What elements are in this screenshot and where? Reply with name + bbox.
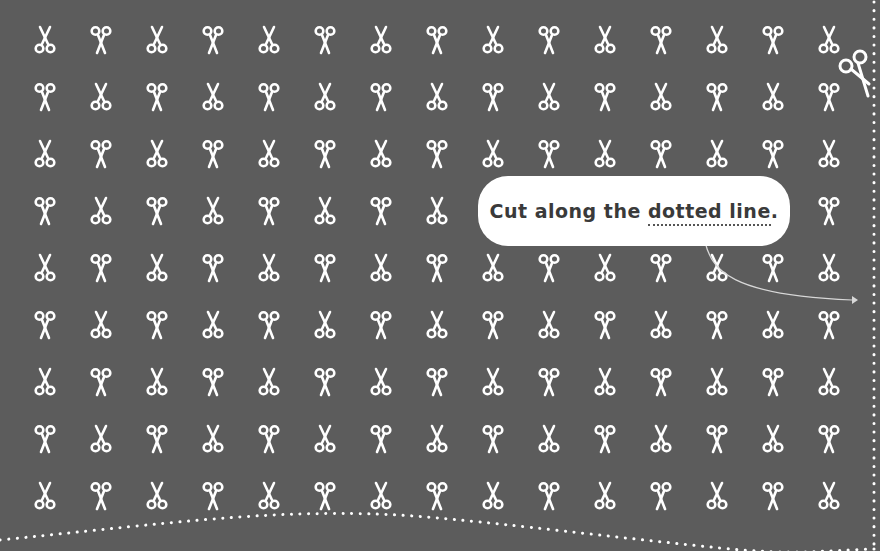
- scissors-rings-up-icon: [146, 310, 168, 340]
- scissors-rings-down-icon: [482, 253, 504, 283]
- scissors-rings-up-icon: [34, 82, 56, 112]
- scissors-rings-down-icon: [146, 139, 168, 169]
- scissors-rings-down-icon: [426, 196, 448, 226]
- scissors-rings-up-icon: [706, 310, 728, 340]
- scissors-rings-down-icon: [482, 25, 504, 55]
- scissors-rings-down-icon: [482, 367, 504, 397]
- scissors-rings-up-icon: [90, 25, 112, 55]
- scissors-rings-down-icon: [706, 25, 728, 55]
- scissors-rings-down-icon: [594, 253, 616, 283]
- scissors-rings-up-icon: [538, 481, 560, 511]
- scissors-rings-up-icon: [314, 25, 336, 55]
- scissors-rings-down-icon: [146, 25, 168, 55]
- scissors-rings-up-icon: [426, 481, 448, 511]
- scissors-rings-down-icon: [34, 481, 56, 511]
- scissors-rings-up-icon: [818, 82, 840, 112]
- scissors-rings-up-icon: [482, 82, 504, 112]
- scissors-cutting-icon: [838, 48, 872, 98]
- scissors-rings-up-icon: [202, 139, 224, 169]
- scissors-rings-up-icon: [650, 139, 672, 169]
- callout-text-prefix: Cut along the: [490, 200, 648, 222]
- scissors-rings-down-icon: [258, 25, 280, 55]
- scissors-rings-up-icon: [762, 367, 784, 397]
- scissors-rings-up-icon: [538, 253, 560, 283]
- scissors-rings-up-icon: [314, 481, 336, 511]
- scissors-rings-up-icon: [258, 82, 280, 112]
- scissors-rings-up-icon: [706, 82, 728, 112]
- scissors-rings-up-icon: [650, 253, 672, 283]
- scissors-rings-up-icon: [146, 82, 168, 112]
- scissors-rings-up-icon: [370, 196, 392, 226]
- callout-text: Cut along the dotted line.: [490, 200, 779, 222]
- scissors-rings-down-icon: [90, 424, 112, 454]
- scissors-rings-down-icon: [594, 139, 616, 169]
- scissors-rings-up-icon: [762, 139, 784, 169]
- scissors-rings-up-icon: [34, 196, 56, 226]
- scissors-rings-down-icon: [370, 253, 392, 283]
- scissors-rings-up-icon: [650, 367, 672, 397]
- scissors-rings-down-icon: [258, 139, 280, 169]
- scissors-rings-down-icon: [426, 424, 448, 454]
- scissors-rings-down-icon: [146, 481, 168, 511]
- scissors-rings-down-icon: [706, 481, 728, 511]
- scissors-rings-down-icon: [34, 139, 56, 169]
- scissors-rings-down-icon: [314, 310, 336, 340]
- scissors-rings-up-icon: [146, 196, 168, 226]
- scissors-rings-down-icon: [818, 25, 840, 55]
- scissors-rings-up-icon: [202, 25, 224, 55]
- scissors-rings-down-icon: [370, 481, 392, 511]
- scissors-rings-up-icon: [594, 82, 616, 112]
- scissors-rings-up-icon: [594, 310, 616, 340]
- scissors-rings-up-icon: [426, 139, 448, 169]
- scissors-rings-down-icon: [594, 481, 616, 511]
- scissors-rings-down-icon: [258, 253, 280, 283]
- scissors-rings-down-icon: [146, 367, 168, 397]
- scissors-rings-down-icon: [34, 25, 56, 55]
- scissors-rings-down-icon: [90, 196, 112, 226]
- scissors-rings-up-icon: [90, 139, 112, 169]
- scissors-rings-up-icon: [482, 310, 504, 340]
- scissors-rings-up-icon: [314, 253, 336, 283]
- scissors-rings-down-icon: [202, 424, 224, 454]
- scissors-rings-up-icon: [594, 424, 616, 454]
- scissors-rings-down-icon: [426, 82, 448, 112]
- scissors-rings-down-icon: [146, 253, 168, 283]
- scissors-rings-up-icon: [90, 481, 112, 511]
- scissors-rings-up-icon: [426, 25, 448, 55]
- scissors-rings-up-icon: [538, 367, 560, 397]
- scissors-rings-down-icon: [34, 367, 56, 397]
- scissors-rings-down-icon: [370, 139, 392, 169]
- scissors-rings-up-icon: [762, 253, 784, 283]
- scissors-rings-down-icon: [426, 310, 448, 340]
- scissors-rings-up-icon: [146, 424, 168, 454]
- scissors-rings-down-icon: [706, 253, 728, 283]
- scissors-rings-up-icon: [650, 25, 672, 55]
- scissors-rings-down-icon: [314, 424, 336, 454]
- scissors-rings-down-icon: [370, 367, 392, 397]
- scissors-rings-up-icon: [426, 253, 448, 283]
- scissors-rings-down-icon: [650, 82, 672, 112]
- scissors-rings-down-icon: [314, 82, 336, 112]
- scissors-rings-down-icon: [258, 367, 280, 397]
- scissors-rings-up-icon: [482, 424, 504, 454]
- scissors-rings-down-icon: [482, 481, 504, 511]
- scissors-rings-up-icon: [314, 367, 336, 397]
- scissors-rings-down-icon: [650, 424, 672, 454]
- scissors-rings-up-icon: [706, 424, 728, 454]
- scissors-rings-up-icon: [258, 424, 280, 454]
- scissors-rings-up-icon: [258, 196, 280, 226]
- scissors-rings-up-icon: [426, 367, 448, 397]
- scissors-rings-down-icon: [370, 25, 392, 55]
- scissors-rings-down-icon: [818, 253, 840, 283]
- scissors-rings-down-icon: [90, 310, 112, 340]
- scissors-rings-up-icon: [90, 253, 112, 283]
- scissors-rings-down-icon: [538, 82, 560, 112]
- scissors-rings-up-icon: [202, 367, 224, 397]
- scissors-rings-up-icon: [818, 196, 840, 226]
- scissors-rings-down-icon: [650, 310, 672, 340]
- scissors-rings-up-icon: [314, 139, 336, 169]
- scissors-rings-up-icon: [762, 25, 784, 55]
- scissors-rings-down-icon: [314, 196, 336, 226]
- scissors-rings-up-icon: [34, 424, 56, 454]
- callout-text-suffix: .: [771, 200, 779, 222]
